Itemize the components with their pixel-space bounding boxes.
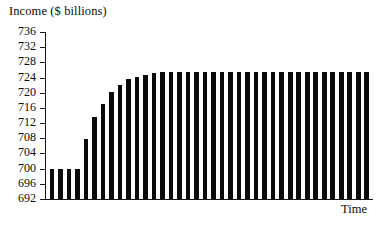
bar: [288, 72, 293, 199]
y-axis-tick-mark: [40, 199, 45, 200]
bar: [101, 104, 106, 199]
x-axis-label: Time: [341, 202, 367, 217]
y-axis-tick-label: 724: [18, 70, 36, 85]
y-axis-tick-label: 736: [18, 24, 36, 39]
bar: [254, 72, 259, 199]
bar: [364, 72, 369, 199]
bar: [271, 72, 276, 199]
y-axis-tick-label: 692: [18, 191, 36, 206]
bar: [92, 117, 97, 199]
y-axis-tick-label: 696: [18, 176, 36, 191]
bar: [296, 72, 301, 199]
y-axis-tick-label: 712: [18, 115, 36, 130]
bar: [262, 72, 267, 199]
bar: [356, 72, 361, 199]
plot-area: 692696700704708712716720724728732736: [0, 0, 387, 236]
bar: [58, 169, 63, 199]
x-axis-line: [45, 199, 373, 200]
bar: [211, 72, 216, 199]
y-axis-tick-label: 728: [18, 54, 36, 69]
bar: [118, 85, 123, 199]
bar: [237, 72, 242, 199]
bar: [339, 72, 344, 199]
bar: [194, 72, 199, 199]
bar: [169, 72, 174, 199]
bar: [160, 72, 165, 199]
bar: [152, 73, 157, 199]
bar: [67, 169, 72, 199]
bar: [279, 72, 284, 199]
bar: [203, 72, 208, 199]
y-axis-tick-label: 720: [18, 85, 36, 100]
bar: [126, 79, 131, 199]
bar: [313, 72, 318, 199]
bar: [228, 72, 233, 199]
bar: [245, 72, 250, 199]
bar: [109, 92, 114, 199]
bar: [143, 75, 148, 199]
y-axis-tick-label: 704: [18, 145, 36, 160]
bar: [322, 72, 327, 199]
bar: [75, 169, 80, 199]
y-axis-tick-label: 716: [18, 100, 36, 115]
bar: [177, 72, 182, 199]
bar-series: [45, 32, 373, 199]
bar: [347, 72, 352, 199]
y-axis-tick-label: 700: [18, 161, 36, 176]
y-axis-tick-label: 708: [18, 130, 36, 145]
chart-figure: Income ($ billions) 69269670070470871271…: [0, 0, 387, 236]
bar: [50, 169, 55, 199]
bar: [330, 72, 335, 199]
bar: [135, 77, 140, 199]
y-axis-tick-label: 732: [18, 39, 36, 54]
bar: [186, 72, 191, 199]
bar: [84, 139, 89, 199]
bar: [305, 72, 310, 199]
bar: [220, 72, 225, 199]
